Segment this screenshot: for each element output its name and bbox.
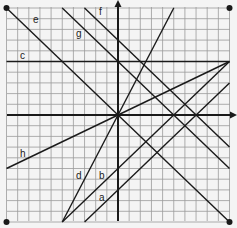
line-label-g: g xyxy=(76,28,82,39)
x-axis-arrow-icon xyxy=(230,112,237,119)
corner-dot xyxy=(227,5,233,11)
y-axis-arrow-icon xyxy=(115,0,122,7)
line-label-f: f xyxy=(99,6,102,17)
line-g xyxy=(62,8,229,169)
corner-dot xyxy=(4,5,10,11)
corner-dot xyxy=(227,219,233,225)
line-label-b: b xyxy=(99,170,105,181)
line-f xyxy=(85,8,230,147)
coordinate-grid-figure: efgchdba xyxy=(0,0,237,228)
grid-svg: efgchdba xyxy=(0,0,237,228)
corner-dot xyxy=(4,219,10,225)
line-label-d: d xyxy=(76,170,82,181)
line-label-c: c xyxy=(20,50,25,61)
line-label-a: a xyxy=(99,192,105,203)
line-label-e: e xyxy=(33,14,39,25)
line-label-h: h xyxy=(20,148,26,159)
axes xyxy=(7,0,237,221)
